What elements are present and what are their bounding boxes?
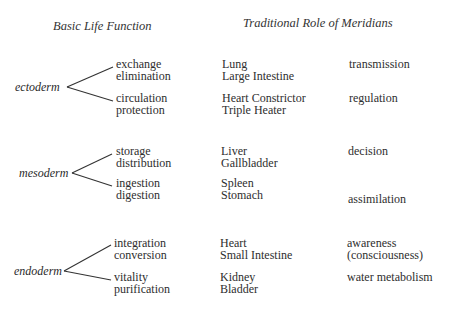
function-item: elimination <box>116 70 171 82</box>
role-item: decision <box>348 145 388 157</box>
meridian-item: Large Intestine <box>222 70 294 82</box>
role-item: water metabolism <box>347 271 433 283</box>
germ-layer-label: mesoderm <box>19 166 68 181</box>
function-item: distribution <box>116 157 171 169</box>
endoderm-branch <box>64 245 111 280</box>
role-item: transmission <box>349 58 410 70</box>
mesoderm-branch <box>72 154 112 186</box>
meridian-item: Small Intestine <box>220 249 292 261</box>
meridian-item: Stomach <box>221 189 263 201</box>
ectoderm-branch <box>67 67 113 101</box>
function-item: conversion <box>114 249 167 261</box>
function-item: purification <box>114 283 170 295</box>
germ-layer-label: endoderm <box>14 264 62 279</box>
function-item: protection <box>116 104 165 116</box>
function-item: digestion <box>116 189 160 201</box>
meridian-item: Gallbladder <box>221 157 278 169</box>
meridian-item: Bladder <box>220 283 258 295</box>
role-item: (consciousness) <box>347 249 423 261</box>
meridian-item: Triple Heater <box>222 104 286 116</box>
role-item: regulation <box>349 92 398 104</box>
role-item: assimilation <box>348 193 406 205</box>
germ-layer-label: ectoderm <box>15 80 60 95</box>
